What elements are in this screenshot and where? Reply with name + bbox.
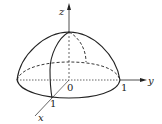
meridian-back-dashed: [69, 32, 86, 62]
z-axis-arrowhead-icon: [67, 3, 71, 10]
y-tick-label: 1: [121, 82, 127, 93]
y-axis-label: y: [147, 75, 154, 86]
equator-back-dashed: [17, 62, 120, 80]
x-tick-label: 1: [50, 98, 56, 109]
origin-label: 0: [67, 82, 73, 93]
y-axis-arrowhead-icon: [140, 78, 147, 82]
x-axis-label: x: [38, 112, 44, 123]
dome-outline: [17, 32, 120, 80]
hemisphere-diagram: z y x 0 1 1: [0, 0, 162, 124]
z-axis-label: z: [58, 6, 65, 17]
